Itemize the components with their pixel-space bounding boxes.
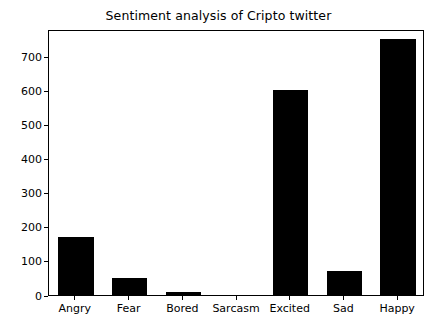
y-tick-label: 700 xyxy=(0,52,42,63)
y-tick-label: 600 xyxy=(0,86,42,97)
y-tick-mark xyxy=(44,125,48,126)
x-tick-mark xyxy=(289,296,290,300)
y-tick-mark xyxy=(44,227,48,228)
x-tick-mark xyxy=(128,296,129,300)
plot-area xyxy=(49,31,423,295)
bar-fear xyxy=(112,278,147,295)
bar-sad xyxy=(327,271,362,295)
y-tick-mark xyxy=(44,261,48,262)
x-tick-label-angry: Angry xyxy=(59,303,92,314)
x-tick-label-bored: Bored xyxy=(166,303,198,314)
x-tick-label-excited: Excited xyxy=(269,303,309,314)
bar-bored xyxy=(166,292,201,295)
bar-happy xyxy=(380,39,415,295)
y-tick-label: 100 xyxy=(0,256,42,267)
y-tick-label: 400 xyxy=(0,154,42,165)
x-tick-label-fear: Fear xyxy=(117,303,141,314)
x-tick-label-sarcasm: Sarcasm xyxy=(212,303,259,314)
y-tick-mark xyxy=(44,296,48,297)
y-tick-mark xyxy=(44,57,48,58)
y-tick-label: 500 xyxy=(0,120,42,131)
x-tick-mark xyxy=(74,296,75,300)
y-tick-label: 0 xyxy=(0,291,42,302)
x-tick-mark xyxy=(236,296,237,300)
bar-angry xyxy=(58,237,93,295)
y-tick-mark xyxy=(44,91,48,92)
chart-figure: Sentiment analysis of Cripto twitter 010… xyxy=(0,0,437,333)
x-tick-mark xyxy=(343,296,344,300)
bar-excited xyxy=(273,90,308,295)
plot-axes xyxy=(48,30,424,296)
y-tick-mark xyxy=(44,159,48,160)
chart-title: Sentiment analysis of Cripto twitter xyxy=(0,8,437,23)
x-tick-mark xyxy=(397,296,398,300)
x-tick-label-happy: Happy xyxy=(379,303,415,314)
x-tick-mark xyxy=(182,296,183,300)
x-tick-label-sad: Sad xyxy=(333,303,354,314)
y-tick-label: 200 xyxy=(0,222,42,233)
y-tick-mark xyxy=(44,193,48,194)
y-tick-label: 300 xyxy=(0,188,42,199)
